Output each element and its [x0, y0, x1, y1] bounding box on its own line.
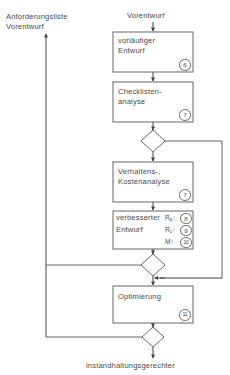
metric-m-arrow: ↑ — [171, 238, 174, 245]
decision-3-shape — [142, 327, 164, 347]
box-vorlaeufiger-entwurf-line2: Entwurf — [118, 46, 145, 56]
flowchart-svg — [0, 0, 230, 375]
box-vorlaeufiger-entwurf-badge: 6 — [179, 59, 191, 71]
metric-rp-badge: 8 — [180, 213, 192, 225]
decision-2-shape — [141, 254, 165, 276]
metric-m: M↑ — [165, 238, 174, 246]
metric-rp: Rp↑ — [165, 214, 176, 224]
box-verbesserter-entwurf-line1: verbesserter — [116, 213, 160, 223]
box-verbesserter-entwurf-line2: Entwurf — [116, 225, 143, 235]
box-checklistenanalyse-line1: Checklisten- — [118, 87, 162, 97]
box-checklistenanalyse-badge: 7 — [179, 109, 191, 121]
box-verhaltens-kostenanalyse-line2: Kostenanalyse — [118, 177, 170, 187]
metric-rp-arrow: ↑ — [172, 214, 175, 221]
metric-rc: Rc↑ — [165, 226, 175, 236]
box-verhaltens-kostenanalyse-badge: 7 — [179, 189, 191, 201]
decision-1-shape — [141, 130, 165, 152]
title-label: Vorentwurf — [127, 11, 165, 20]
box-optimierung-line1: Optimierung — [118, 292, 161, 302]
input-label-line2: Vorentwurf — [6, 22, 44, 31]
input-label-line1: Anforderungsliste — [6, 12, 68, 21]
box-vorlaeufiger-entwurf-line1: vorläufiger — [118, 36, 155, 46]
output-label: instandhaltungsgerechter — [86, 361, 175, 370]
box-checklistenanalyse-line2: analyse — [118, 97, 145, 107]
metric-rc-arrow: ↑ — [172, 226, 175, 233]
metric-m-badge: 10 — [180, 237, 192, 249]
metric-rc-badge: 9 — [180, 225, 192, 237]
flowchart-canvas: Vorentwurf Anforderungsliste Vorentwurf … — [0, 0, 230, 375]
box-optimierung-badge: 11 — [179, 309, 191, 321]
box-verhaltens-kostenanalyse-line1: Verhaltens-, — [118, 167, 160, 177]
